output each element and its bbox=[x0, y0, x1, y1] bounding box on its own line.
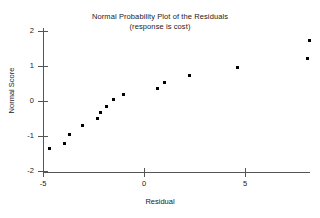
normal-probability-plot-figure: Normal Probability Plot of the Residuals… bbox=[0, 0, 320, 218]
y-axis-tick-label: -1 bbox=[12, 132, 34, 140]
y-axis-tick-label: -2 bbox=[12, 167, 34, 175]
x-axis-title: Residual bbox=[0, 197, 320, 206]
x-axis-tick-label: -5 bbox=[31, 180, 55, 188]
data-point bbox=[99, 111, 102, 114]
x-axis-tick-label: 0 bbox=[132, 180, 156, 188]
data-point bbox=[63, 142, 66, 145]
scatter-plot-area bbox=[43, 28, 310, 172]
data-point bbox=[68, 133, 71, 136]
data-point bbox=[112, 98, 115, 101]
data-point bbox=[236, 66, 239, 69]
y-axis-title: Normal Score bbox=[7, 56, 16, 126]
data-point bbox=[163, 81, 166, 84]
data-point bbox=[105, 105, 108, 108]
data-point bbox=[308, 39, 311, 42]
x-axis-line bbox=[43, 172, 310, 173]
x-axis-tick-label: 5 bbox=[233, 180, 257, 188]
y-axis-tick-label: 2 bbox=[12, 27, 34, 35]
data-point bbox=[188, 74, 191, 77]
chart-title: Normal Probability Plot of the Residuals bbox=[0, 12, 320, 21]
data-point bbox=[48, 147, 51, 150]
data-point bbox=[306, 57, 309, 60]
data-point bbox=[122, 93, 125, 96]
data-point bbox=[156, 87, 159, 90]
data-point bbox=[96, 117, 99, 120]
data-point bbox=[81, 124, 84, 127]
